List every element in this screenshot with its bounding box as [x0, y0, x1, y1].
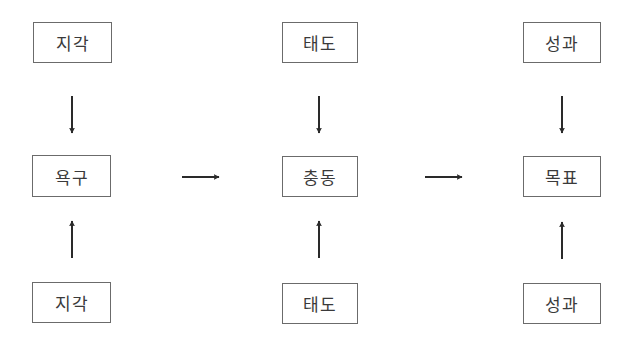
node-label: 성과 [545, 30, 579, 55]
node-label: 성과 [545, 291, 579, 316]
node-need: 욕구 [32, 155, 111, 197]
node-label: 태도 [303, 291, 337, 316]
node-attitude-bottom: 태도 [282, 283, 358, 324]
node-performance-top: 성과 [523, 22, 601, 63]
node-label: 태도 [303, 30, 337, 55]
node-label: 지각 [55, 290, 89, 315]
node-performance-bottom: 성과 [523, 283, 601, 324]
motivation-flow-diagram: 지각 욕구 지각 태도 충동 태도 성과 목표 성과 [0, 0, 625, 346]
node-attitude-top: 태도 [282, 22, 358, 63]
node-perception-top: 지각 [33, 22, 112, 63]
node-impulse: 충동 [282, 156, 358, 197]
node-goal: 목표 [523, 156, 601, 197]
node-label: 욕구 [55, 164, 89, 189]
node-label: 지각 [56, 30, 90, 55]
node-perception-bottom: 지각 [32, 282, 111, 323]
node-label: 충동 [303, 164, 337, 189]
node-label: 목표 [545, 164, 579, 189]
